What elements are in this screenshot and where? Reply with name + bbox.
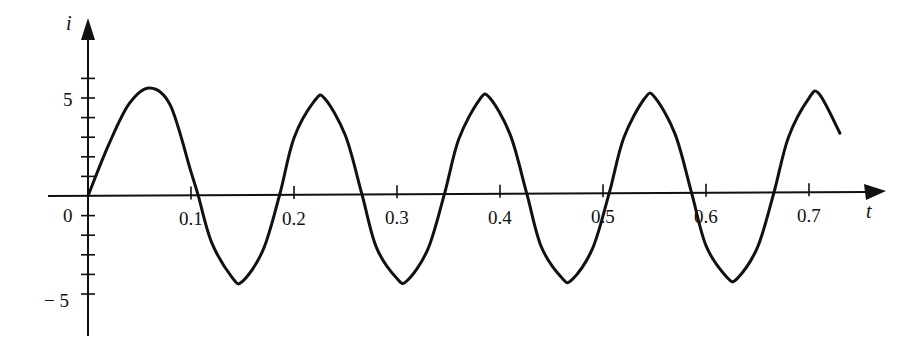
y-axis-arrow-icon bbox=[81, 18, 95, 40]
y-tick-label-5: 5 bbox=[63, 89, 73, 110]
y-axis-label: i bbox=[66, 12, 72, 34]
current-waveform-line bbox=[88, 88, 840, 284]
x-axis-label: t bbox=[866, 200, 872, 222]
x-tick-label: 0.2 bbox=[282, 208, 306, 229]
x-axis-arrow-icon bbox=[864, 184, 886, 200]
x-tick-label: 0.7 bbox=[797, 205, 821, 226]
x-tick-label: 0.3 bbox=[385, 207, 409, 228]
origin-label: 0 bbox=[63, 205, 73, 226]
x-tick-label: 0.4 bbox=[488, 207, 512, 228]
axes bbox=[48, 18, 886, 336]
y-tick-label-neg5: − 5 bbox=[44, 290, 69, 311]
x-axis bbox=[48, 192, 868, 196]
x-tick-label: 0.1 bbox=[179, 208, 203, 229]
chart: 0.10.20.30.40.50.60.7 i t 0 5 − 5 bbox=[0, 0, 920, 349]
